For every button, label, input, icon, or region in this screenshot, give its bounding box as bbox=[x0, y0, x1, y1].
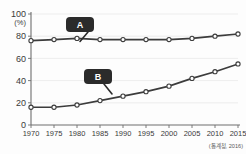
data-point-marker bbox=[190, 76, 194, 80]
x-tick-label: 1970 bbox=[23, 129, 40, 138]
x-tick-label: 1980 bbox=[69, 129, 86, 138]
y-axis-tick-labels: 020406080100 bbox=[11, 9, 26, 130]
series-line bbox=[31, 64, 238, 107]
data-point-marker bbox=[75, 103, 79, 107]
data-point-marker bbox=[167, 37, 171, 41]
data-point-marker bbox=[121, 94, 125, 98]
series-callouts: AB bbox=[66, 17, 112, 94]
x-tick-label: 1990 bbox=[115, 129, 132, 138]
x-tick-label: 1995 bbox=[138, 129, 155, 138]
data-point-marker bbox=[236, 62, 240, 66]
x-tick-label: 2000 bbox=[161, 129, 178, 138]
data-point-marker bbox=[29, 105, 33, 109]
data-point-marker bbox=[52, 105, 56, 109]
callout-pointer-icon bbox=[104, 84, 112, 94]
x-tick-label: 1975 bbox=[46, 129, 63, 138]
data-point-marker bbox=[29, 39, 33, 43]
x-tick-label: 2010 bbox=[207, 129, 224, 138]
y-tick-label: 80 bbox=[16, 31, 26, 41]
callout-pointer-icon bbox=[80, 32, 88, 42]
y-tick-label: 60 bbox=[16, 54, 26, 64]
data-point-marker bbox=[98, 37, 102, 41]
data-point-marker bbox=[52, 37, 56, 41]
data-point-marker bbox=[236, 32, 240, 36]
data-point-marker bbox=[213, 70, 217, 74]
x-axis-tick-labels: 1970197519801985199019952000200520102015 bbox=[23, 129, 246, 138]
x-tick-label: 1985 bbox=[92, 129, 109, 138]
gridlines bbox=[31, 14, 238, 103]
chart-canvas: 020406080100 197019751980198519901995200… bbox=[0, 0, 246, 154]
series-b bbox=[29, 62, 240, 109]
data-point-marker bbox=[121, 37, 125, 41]
data-point-marker bbox=[167, 84, 171, 88]
x-tick-label: 2005 bbox=[184, 129, 201, 138]
data-point-marker bbox=[144, 37, 148, 41]
data-point-marker bbox=[98, 98, 102, 102]
data-point-marker bbox=[75, 36, 79, 40]
data-point-marker bbox=[190, 36, 194, 40]
x-tick-label: 2015 bbox=[230, 129, 246, 138]
y-tick-label: 20 bbox=[16, 98, 26, 108]
series-line bbox=[31, 34, 238, 41]
callout-label: A bbox=[77, 20, 84, 30]
source-credit: (통계청, 2016) bbox=[209, 142, 243, 150]
y-tick-label: 40 bbox=[16, 76, 26, 86]
callout-b: B bbox=[84, 69, 112, 94]
series-a bbox=[29, 32, 240, 43]
data-point-marker bbox=[213, 34, 217, 38]
data-point-marker bbox=[144, 90, 148, 94]
series-layer bbox=[29, 32, 240, 109]
callout-label: B bbox=[95, 72, 102, 82]
line-chart: 020406080100 197019751980198519901995200… bbox=[0, 0, 246, 154]
y-axis-unit-label: (%) bbox=[14, 18, 26, 27]
